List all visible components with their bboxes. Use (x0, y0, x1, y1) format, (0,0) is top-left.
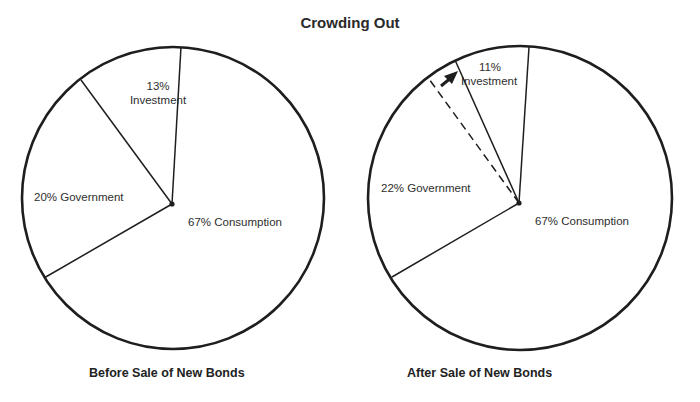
before-government-label: 20% Government (34, 190, 124, 204)
after-caption: After Sale of New Bonds (407, 366, 552, 380)
after-investment-pct: 11% (450, 60, 530, 74)
pie-before-center-dot (169, 201, 174, 206)
before-investment-pct: 13% (118, 79, 198, 93)
pie-after (368, 46, 672, 350)
pie-after-center-dot (516, 200, 521, 205)
before-consumption-label: 67% Consumption (188, 215, 282, 229)
after-investment-label: Investment (449, 74, 529, 88)
after-consumption-label: 67% Consumption (535, 214, 629, 228)
after-government-label: 22% Government (381, 181, 471, 195)
before-investment-label: Investment (118, 93, 198, 107)
before-caption: Before Sale of New Bonds (89, 366, 245, 380)
